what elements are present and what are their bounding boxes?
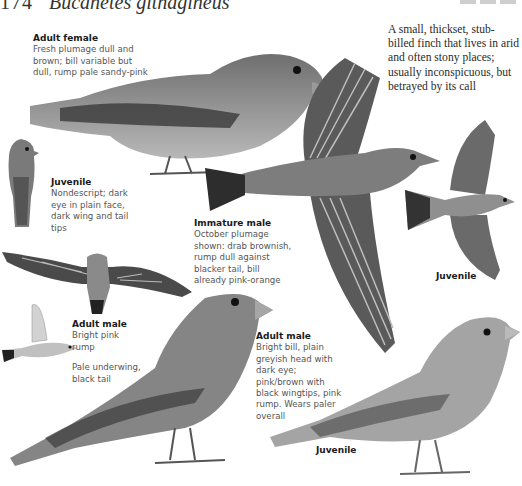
caption-adult-female: Adult female Fresh plumage dull and brow… <box>33 33 151 79</box>
juvenile-flight-illustration <box>405 120 520 280</box>
species-name: Bucanetes githagineus <box>49 0 230 13</box>
caption-title: Adult female <box>33 33 151 44</box>
caption-text-secondary: Pale underwing, black tail <box>72 362 142 385</box>
caption-text: Bright pink rump <box>72 330 142 353</box>
caption-title: Adult male <box>256 331 346 342</box>
juvenile-perched-illustration <box>3 137 39 229</box>
section-tabs <box>460 0 516 4</box>
page-number: 174 <box>0 0 33 13</box>
caption-adult-male-flight: Adult male Bright pink rump Pale underwi… <box>72 319 142 385</box>
label-juvenile-bottom: Juvenile <box>316 445 356 455</box>
caption-adult-male-perched: Adult male Bright bill, plain greyish he… <box>256 331 346 422</box>
label-juvenile-flight: Juvenile <box>436 271 476 281</box>
caption-title: Immature male <box>194 218 294 229</box>
caption-text: Nondescript; dark eye in plain face, dar… <box>51 188 141 234</box>
caption-text: Fresh plumage dull and brown; bill varia… <box>33 44 151 78</box>
caption-juvenile-perched: Juvenile Nondescript; dark eye in plain … <box>51 177 141 234</box>
caption-immature-male: Immature male October plumage shown: dra… <box>194 218 294 286</box>
caption-text: October plumage shown: drab brownish, ru… <box>194 229 294 286</box>
page-header: 174Bucanetes githagineus <box>0 0 230 11</box>
tab-mark <box>500 0 516 4</box>
caption-title: Adult male <box>72 319 142 330</box>
caption-title: Juvenile <box>51 177 141 188</box>
caption-text: Bright bill, plain greyish head with dar… <box>256 342 346 422</box>
tab-mark <box>480 0 496 4</box>
tab-mark <box>460 0 476 4</box>
